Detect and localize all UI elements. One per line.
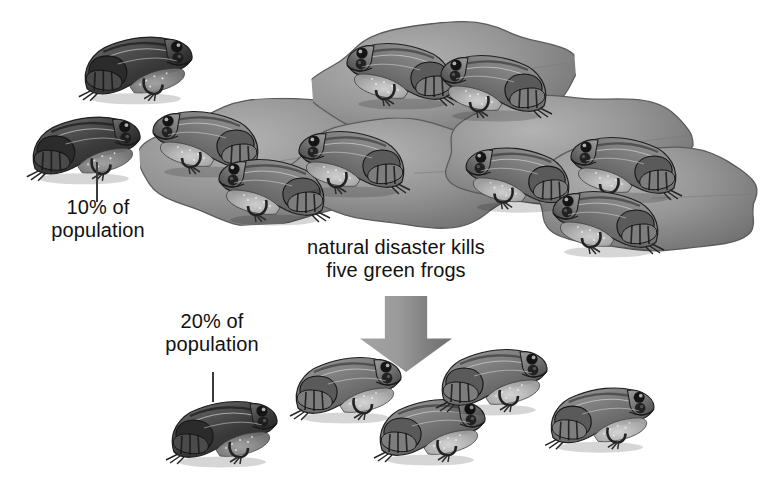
bottom-callout-label: 20% of population <box>132 310 292 356</box>
frog-pad-right-lower <box>548 172 666 258</box>
illustration-canvas: 10% of population natural disaster kills… <box>0 0 767 487</box>
bottom-callout-leader <box>212 372 214 402</box>
frog-after-green-4 <box>543 369 659 453</box>
event-caption-label: natural disaster kills five green frogs <box>278 236 514 282</box>
frog-after-green-3 <box>434 330 552 416</box>
top-callout-label: 10% of population <box>18 196 178 242</box>
frog-after-dark <box>164 382 282 468</box>
frog-pad-center-low <box>294 112 412 198</box>
frog-dark-lower-left <box>25 97 145 185</box>
frog-pad-center-right <box>436 36 554 122</box>
